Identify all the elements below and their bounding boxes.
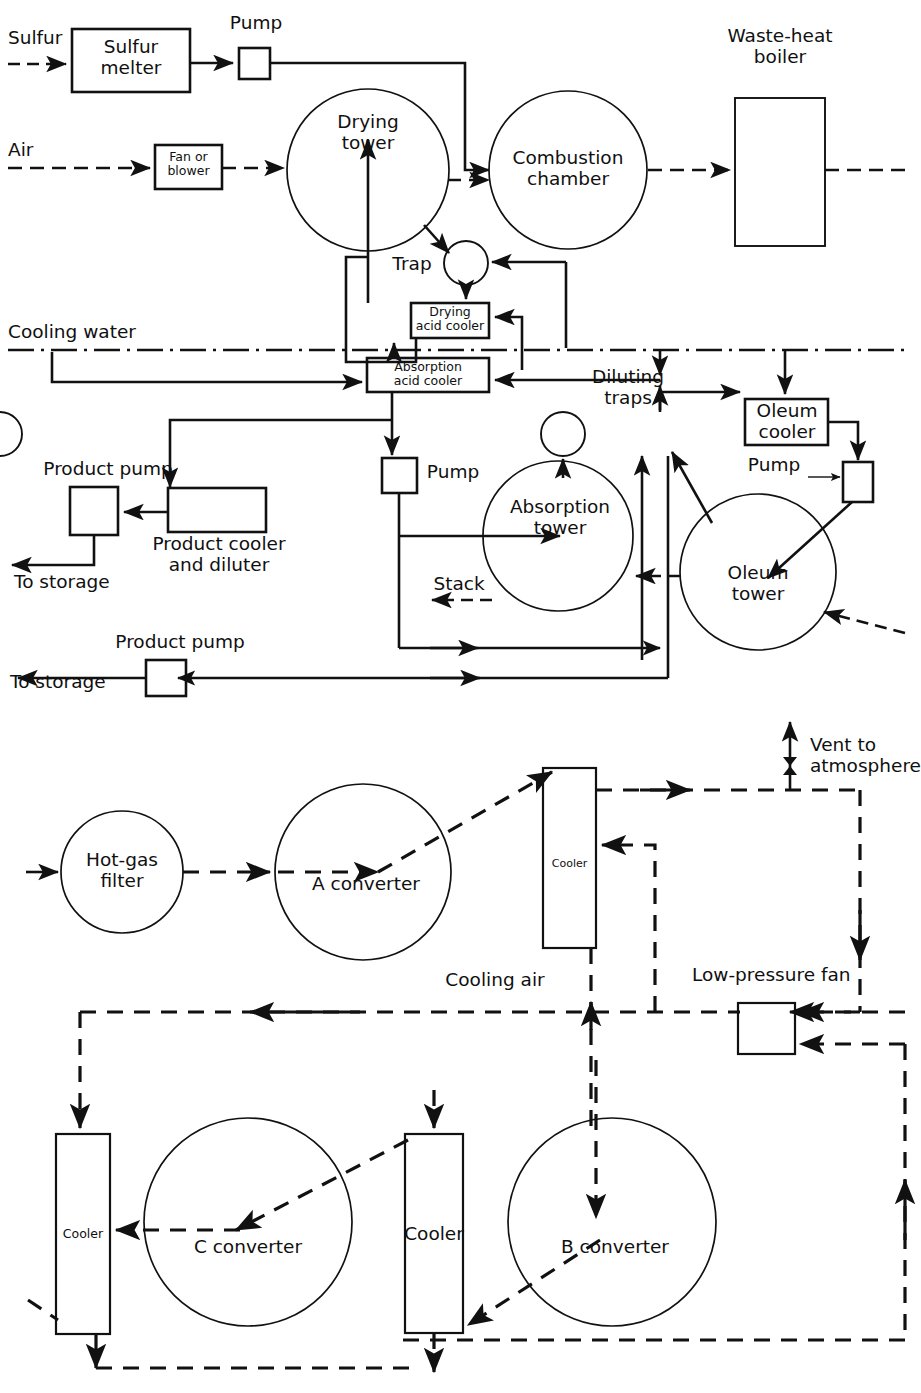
absorption-acid-cooler-label: Absorption acid cooler — [367, 360, 489, 388]
product-pump-2-label: Product pump — [100, 632, 260, 653]
vent-valve-lower — [783, 766, 797, 775]
low-pressure-fan-label: Low-pressure fan — [692, 965, 862, 986]
low-pressure-fan-box — [738, 1003, 795, 1054]
pump-oleum-label: Pump — [742, 455, 806, 476]
combustion-chamber-label: Combustion chamber — [493, 148, 643, 189]
absorption-cooler-outlet-branch — [170, 420, 392, 487]
a-converter-label: A converter — [296, 874, 436, 895]
sulfur-melter-label: Sulfur melter — [76, 37, 186, 78]
mid-cooler-to-c-converter — [236, 1140, 408, 1230]
trap-circle — [444, 241, 488, 285]
absorption-tower-label: Absorption tower — [498, 497, 622, 538]
product-pump-1-box — [70, 487, 118, 535]
hot-gas-filter-label: Hot-gas filter — [62, 850, 182, 891]
fan-or-blower-label: Fan or blower — [155, 150, 222, 178]
c-converter-circle — [144, 1118, 352, 1326]
diluting-trap-circle-1 — [541, 412, 585, 456]
to-storage-2-label: To storage — [10, 672, 120, 693]
process-flow-diagram: Sulfur Sulfur melter Pump Air Fan or blo… — [0, 0, 921, 1393]
stack-label: Stack — [424, 574, 494, 595]
pump-top-label: Pump — [216, 13, 296, 34]
cw-to-absorption-cooler — [52, 352, 362, 382]
oleum-tower-label: Oleum tower — [706, 563, 810, 604]
diluting-traps-label: Diluting traps — [575, 367, 681, 408]
oleum-tower-to-trap2 — [672, 452, 712, 523]
drying-acid-cooler-right-inlet — [495, 317, 522, 370]
oleum-cooler-label: Oleum cooler — [746, 401, 828, 442]
c-converter-label: C converter — [178, 1237, 318, 1258]
product-cooler-diluter-box — [168, 488, 266, 532]
waste-heat-boiler-label: Waste-heat boiler — [706, 26, 854, 67]
product-pump-1-to-storage — [12, 535, 94, 565]
cooling-air-to-cooler-a — [602, 845, 655, 1012]
trap-label: Trap — [382, 254, 442, 275]
cooler-left-bottom-diag — [28, 1300, 58, 1320]
pump-absorption-box — [382, 458, 417, 493]
vent-to-atmosphere-label: Vent to atmosphere — [810, 735, 920, 776]
cooler-a-label: Cooler — [543, 858, 596, 870]
cooler-mid-label: Cooler — [400, 1224, 468, 1245]
gas-feed-to-oleum-tower — [824, 612, 905, 633]
waste-heat-boiler-box — [735, 98, 825, 246]
drying-tower-to-trap — [424, 225, 449, 253]
bottom-diagram-group — [26, 722, 905, 1372]
pump-absorption-label: Pump — [422, 462, 484, 483]
b-converter-circle — [508, 1118, 716, 1326]
cooler-left-label: Cooler — [54, 1227, 112, 1241]
sulfur-feed-label: Sulfur — [8, 28, 86, 49]
air-feed-label: Air — [8, 140, 68, 161]
oleum-cooler-to-pump — [828, 422, 858, 460]
diagram-canvas — [0, 0, 921, 1393]
a-converter-to-cooler — [378, 772, 552, 872]
pump-oleum-box — [843, 462, 873, 502]
b-converter-label: B converter — [545, 1237, 685, 1258]
vent-valve-upper — [783, 757, 797, 766]
cooling-air-label: Cooling air — [430, 970, 560, 991]
product-cooler-diluter-label: Product cooler and diluter — [145, 534, 293, 575]
drying-acid-cooler-label: Drying acid cooler — [411, 305, 489, 333]
diluting-trap-circle-2 — [0, 412, 22, 456]
drying-tower-label: Drying tower — [308, 112, 428, 153]
pump-top-box — [239, 48, 270, 79]
cooling-water-label: Cooling water — [8, 322, 178, 343]
product-pump-1-label: Product pump — [28, 459, 188, 480]
to-storage-1-label: To storage — [14, 572, 124, 593]
